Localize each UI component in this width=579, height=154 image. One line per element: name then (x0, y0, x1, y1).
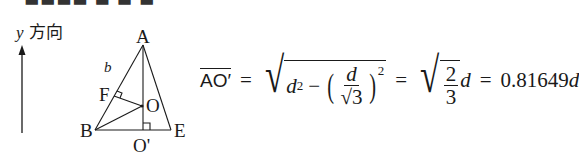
formula-AO-prime: AO′ = √ d2 − ( d √3 )2 = √ 2 3 d = 0.816… (200, 40, 526, 120)
point-label-O: O (146, 95, 160, 116)
fraction-d-over-sqrt3: d √3 (338, 63, 364, 109)
equals-sign: = (480, 68, 492, 93)
vertex-label-F: F (99, 84, 110, 105)
direction-label: 方向 (29, 22, 63, 42)
y-direction-arrow-icon (19, 45, 26, 133)
vertex-label-A: A (136, 26, 150, 47)
fraction-2-over-3: 2 3 (444, 63, 459, 109)
left-paren: ( (327, 69, 334, 103)
numerator: 2 (444, 63, 459, 86)
equals-sign: = (395, 68, 407, 93)
sqrt-expression-1: √ d2 − ( d √3 )2 (261, 50, 386, 109)
denominator: √3 (338, 86, 364, 109)
radical-icon: √ (265, 50, 284, 109)
exponent: 2 (297, 78, 304, 94)
segment-AO-prime: AO′ (200, 68, 231, 92)
y-axis-variable: y (14, 23, 24, 42)
triangle-diagram: y 方向 A B E F O O' b (0, 0, 200, 154)
sqrt-expression-2: √ 2 3 (416, 50, 460, 109)
result-value: 0.81649 (500, 68, 568, 93)
var-d: d (460, 68, 471, 93)
side-label-b: b (104, 59, 112, 75)
right-paren: ) (369, 69, 376, 103)
var-d: d (286, 74, 297, 99)
exponent: 2 (378, 63, 385, 79)
denominator: 3 (444, 86, 459, 109)
segment-FO (114, 96, 142, 106)
vertex-label-B: B (80, 120, 93, 141)
point-O (141, 105, 144, 108)
equals-sign: = (240, 68, 252, 93)
numerator: d (344, 63, 359, 86)
radical-icon: √ (420, 50, 439, 109)
vertex-label-E: E (174, 120, 186, 141)
var-d: d (569, 68, 579, 93)
minus-sign: − (308, 74, 320, 99)
point-label-O-prime: O' (133, 135, 150, 154)
right-angle-mark-O-prime (143, 123, 150, 130)
